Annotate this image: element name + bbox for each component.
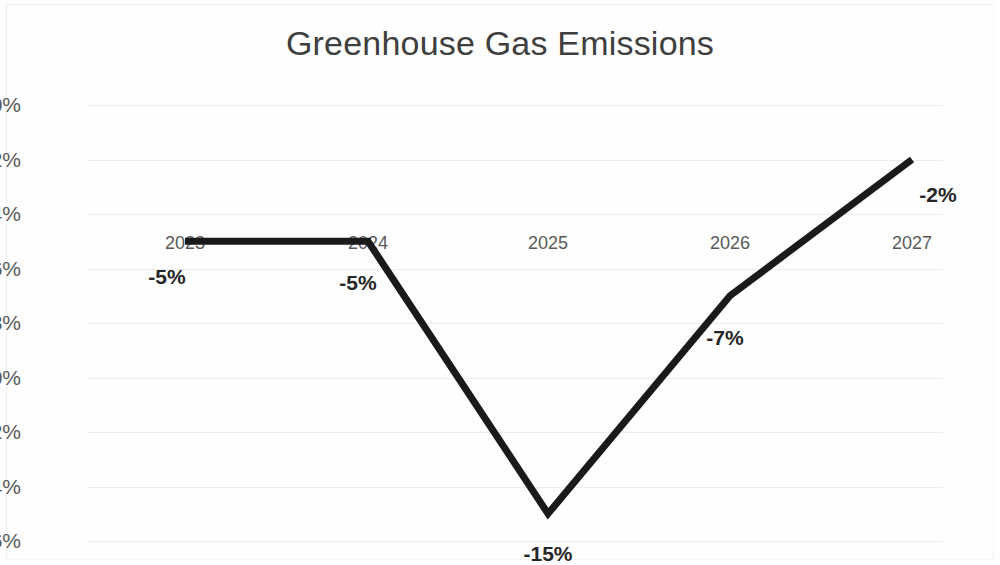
y-axis-tick-label: -4% [0,202,21,226]
data-label: -5% [339,271,376,295]
gridline [88,160,943,161]
gridline [88,214,943,215]
x-axis-tick-label: 2026 [710,233,750,254]
data-label: -5% [148,265,185,289]
gridline [88,269,943,270]
y-axis-tick-label: -6% [0,257,21,281]
gridline [88,105,943,106]
y-axis-tick-label: -16% [0,529,21,553]
gridline [88,323,943,324]
x-axis-tick-label: 2024 [348,233,388,254]
data-label: -2% [919,183,956,207]
gridline [88,487,943,488]
chart-title: Greenhouse Gas Emissions [0,24,1000,63]
y-axis-tick-label: -14% [0,475,21,499]
y-axis-tick-label: -12% [0,420,21,444]
x-axis-tick-label: 2027 [892,233,932,254]
x-axis-tick-label: 2023 [165,233,205,254]
gridline [88,541,943,542]
gridline [88,378,943,379]
y-axis-tick-label: -2% [0,148,21,172]
x-axis-tick-label: 2025 [528,233,568,254]
gridline [88,432,943,433]
y-axis-tick-label: 0% [0,93,21,117]
data-label: -15% [523,542,572,565]
data-label: -7% [706,326,743,350]
chart-container: Greenhouse Gas Emissions 0%-2%-4%-6%-8%-… [0,0,1000,565]
y-axis-tick-label: -8% [0,311,21,335]
plot-area: 0%-2%-4%-6%-8%-10%-12%-14%-16% 202320242… [88,105,943,541]
y-axis-tick-label: -10% [0,366,21,390]
